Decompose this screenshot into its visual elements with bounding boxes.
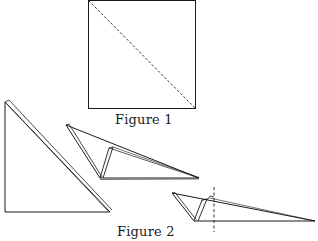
figure2-triangle-stage2 <box>66 124 199 180</box>
figure2-caption: Figure 2 <box>117 224 175 239</box>
figure1-square <box>89 1 196 109</box>
figure1-caption: Figure 1 <box>115 112 173 127</box>
figure2-triangle-stage3 <box>172 187 315 232</box>
diagonal-fold-line <box>89 1 196 109</box>
figure2-triangle-stage1 <box>5 100 112 212</box>
